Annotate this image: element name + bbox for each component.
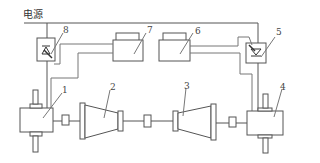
label-2: 2 xyxy=(110,83,116,92)
gearbox-4 xyxy=(247,111,283,135)
wire-6-5 xyxy=(190,37,252,46)
label-5: 5 xyxy=(276,28,282,37)
coupling-mid xyxy=(144,115,151,127)
wire-6-4 xyxy=(190,53,252,111)
cone-2 xyxy=(85,105,118,138)
unit-6-body xyxy=(159,40,190,61)
label-3: 3 xyxy=(184,82,190,91)
coupling-right xyxy=(229,117,236,127)
wire-8-7a xyxy=(54,44,113,64)
label-6: 6 xyxy=(195,27,201,36)
label-7: 7 xyxy=(147,26,153,35)
label-4: 4 xyxy=(280,83,286,92)
coupling-left xyxy=(62,115,69,125)
unit-7-body xyxy=(113,40,143,61)
label-1: 1 xyxy=(62,86,68,95)
label-8: 8 xyxy=(63,26,69,35)
cone-3 xyxy=(178,106,211,138)
